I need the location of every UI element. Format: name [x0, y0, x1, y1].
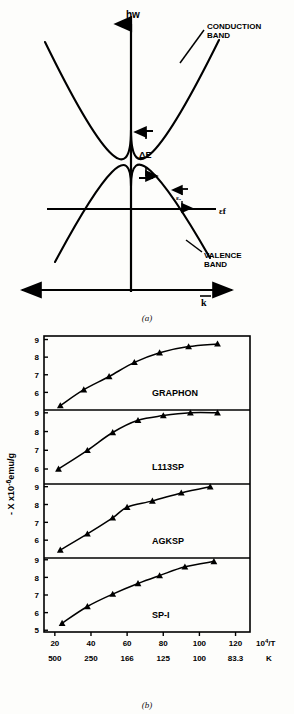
series-curve: [62, 562, 214, 624]
y-tick-label: 8: [35, 428, 40, 437]
secondary-x-axis-label: K: [266, 654, 272, 663]
conduction-band-label-line1: CONDUCTION: [207, 22, 261, 31]
epsilon-zero-label: εₒ: [176, 194, 181, 202]
y-tick-label: 7: [35, 446, 40, 455]
conduction-label-leader: [180, 30, 204, 63]
x-tick-label: 100: [193, 639, 207, 648]
k-axis-label: k: [201, 297, 207, 308]
x-tick-label: 80: [159, 639, 168, 648]
susceptibility-chart-panel: 6789GRAPHON6789L113SP6789AGKSP56789SP-I2…: [0, 328, 294, 703]
panel-a-caption: (a): [0, 313, 294, 323]
y-tick-label: 9: [35, 336, 40, 345]
x-tick-label: 40: [87, 639, 96, 648]
y-tick-label: 9: [35, 409, 40, 418]
y-tick-label: 7: [35, 519, 40, 528]
data-point-marker: [80, 386, 87, 392]
x-axis-label: 104/T: [256, 638, 275, 648]
x-tick-label: 20: [50, 639, 59, 648]
panel-b-caption: (b): [0, 700, 294, 710]
y-tick-label: 7: [35, 591, 40, 600]
data-point-marker: [57, 547, 64, 553]
chart-subpanel-sp-i: 56789SP-I: [35, 556, 250, 635]
conduction-band-label-line2: BAND: [207, 31, 230, 40]
chart-subpanel-graphon: 6789GRAPHON: [35, 336, 221, 409]
secondary-x-tick-label: 125: [157, 654, 171, 663]
series-curve: [60, 487, 210, 550]
data-point-marker: [55, 466, 62, 472]
secondary-x-tick-label: 100: [193, 654, 207, 663]
valence-band-curve: [55, 165, 210, 262]
y-axis-label: - X x10-6emu/g: [5, 453, 17, 515]
y-tick-label: 5: [35, 626, 40, 635]
x-tick-label: 60: [123, 639, 132, 648]
secondary-x-tick-label: 83.3: [228, 654, 244, 663]
y-tick-label: 6: [35, 465, 40, 474]
y-tick-label: 6: [35, 536, 40, 545]
data-point-marker: [84, 531, 91, 537]
x-tick-label: 120: [229, 639, 243, 648]
y-tick-label: 8: [35, 353, 40, 362]
fermi-level-label: εf: [219, 206, 227, 216]
plot-root: 6789GRAPHON6789L113SP6789AGKSP56789SP-I2…: [5, 336, 276, 663]
x-axis: 2050040250601668012510010012083.3: [48, 632, 244, 663]
y-tick-label: 8: [35, 501, 40, 510]
valence-band-label-line1: VALENCE: [204, 251, 242, 260]
series-label: SP-I: [152, 610, 170, 620]
y-tick-label: 6: [35, 389, 40, 398]
data-point-marker: [109, 429, 116, 435]
energy-axis-label: hw: [126, 9, 140, 20]
series-label: AGKSP: [152, 536, 184, 546]
y-tick-label: 9: [35, 483, 40, 492]
y-tick-label: 8: [35, 574, 40, 583]
secondary-x-tick-label: 250: [84, 654, 98, 663]
figure-container: hw CONDUCTION BAND VALENCE BAND εf ΔE: [0, 0, 294, 714]
k-axis-label-group: k: [200, 296, 211, 308]
y-tick-label: 9: [35, 556, 40, 565]
series-label: L113SP: [152, 462, 184, 472]
secondary-x-tick-label: 500: [48, 654, 62, 663]
chart-subpanel-l113sp: 6789L113SP: [35, 409, 250, 474]
chart-subpanel-agksp: 6789AGKSP: [35, 483, 250, 553]
band-gap-label: ΔE: [139, 150, 151, 160]
data-point-marker: [84, 603, 91, 609]
data-point-marker: [106, 373, 113, 379]
valence-band-label-line2: BAND: [204, 260, 227, 269]
band-diagram-panel: hw CONDUCTION BAND VALENCE BAND εf ΔE: [0, 0, 294, 310]
secondary-x-tick-label: 166: [120, 654, 134, 663]
y-tick-label: 6: [35, 609, 40, 618]
y-tick-label: 7: [35, 371, 40, 380]
series-label: GRAPHON: [152, 388, 198, 398]
